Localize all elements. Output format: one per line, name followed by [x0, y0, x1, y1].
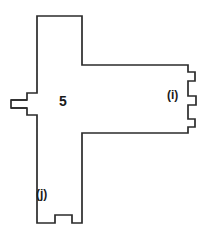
part-drawing-svg [0, 0, 208, 239]
feature-callout-j-label: (j) [36, 188, 47, 200]
figure-canvas: 5 (i) (j) [0, 0, 208, 239]
feature-callout-i-label: (i) [167, 89, 178, 101]
part-number-label: 5 [59, 94, 67, 108]
